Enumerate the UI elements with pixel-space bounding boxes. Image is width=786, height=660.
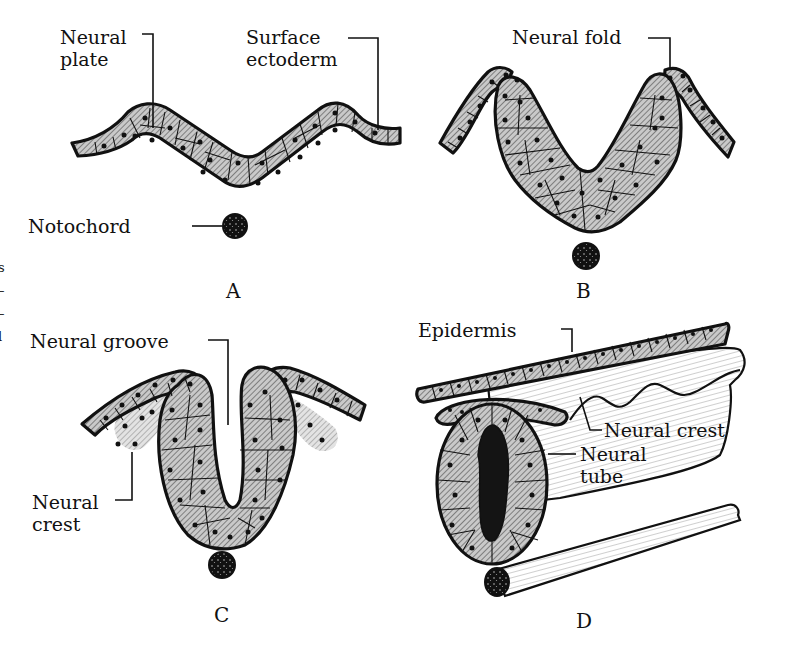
edge-fragment: s — [0, 260, 5, 275]
neurulation-diagram: s – – l Neural plate Surface ect — [0, 0, 786, 660]
panel-a: Neural plate Surface ectoderm Notochord … — [28, 26, 400, 303]
label-neural-crest-line2: crest — [32, 513, 81, 535]
edge-fragment: – — [0, 306, 5, 321]
label-neural-plate-line1: Neural — [60, 26, 127, 48]
leader-neural-fold — [648, 38, 670, 70]
notochord — [485, 568, 509, 596]
edge-fragment-text: s – – l — [0, 260, 5, 344]
panel-letter-a: A — [225, 279, 241, 303]
label-neural-tube-line2: tube — [580, 465, 623, 487]
notochord — [573, 243, 599, 269]
panel-d: Epidermis Neural crest Neural tube D — [417, 319, 745, 633]
panel-c: Neural groove Neural crest C — [30, 330, 365, 627]
label-surface-ectoderm-line1: Surface — [246, 26, 321, 48]
label-neural-plate-line2: plate — [60, 48, 108, 70]
edge-fragment: – — [0, 283, 5, 298]
label-neural-crest: Neural crest — [604, 419, 725, 441]
neural-groove-tissue — [159, 367, 296, 549]
label-neural-crest-line1: Neural — [32, 491, 99, 513]
panel-b: Neural fold B — [440, 26, 734, 303]
label-surface-ectoderm-line2: ectoderm — [246, 48, 337, 70]
leader-neural-crest — [115, 452, 132, 500]
panel-letter-d: D — [576, 609, 592, 633]
neural-plate-tissue — [72, 103, 400, 187]
label-epidermis: Epidermis — [418, 319, 516, 341]
panel-letter-c: C — [214, 603, 229, 627]
label-notochord: Notochord — [28, 215, 131, 237]
panel-letter-b: B — [576, 279, 591, 303]
notochord — [209, 552, 235, 578]
leader-epidermis — [561, 329, 572, 352]
label-neural-fold: Neural fold — [512, 26, 621, 48]
label-neural-groove: Neural groove — [30, 330, 169, 352]
notochord — [223, 214, 247, 238]
edge-fragment: l — [0, 329, 2, 344]
label-neural-tube-line1: Neural — [580, 443, 647, 465]
